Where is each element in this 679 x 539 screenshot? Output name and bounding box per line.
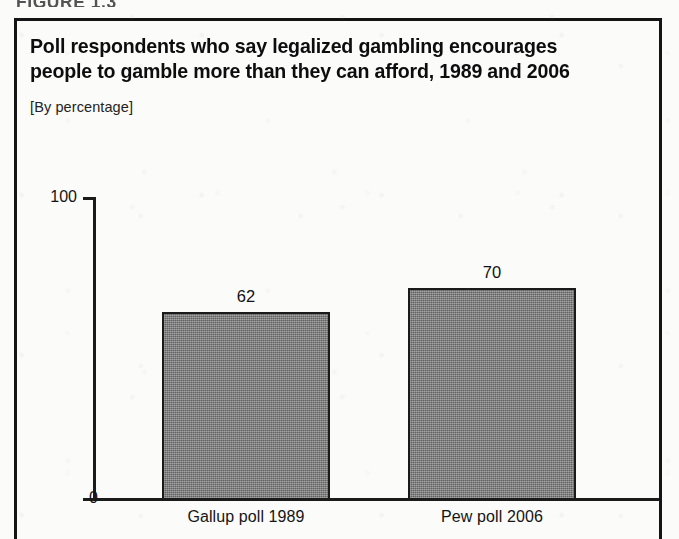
- bar-value-label-1: 70: [408, 263, 576, 282]
- bar-value-label-0: 62: [162, 287, 330, 306]
- bar-pew-poll-2006: [408, 288, 576, 500]
- y-axis-label-0: 0: [38, 489, 98, 507]
- bar-chart-plot: 100 0 62 70 Gallup poll 1989 Pew poll 20…: [0, 0, 679, 539]
- category-label-pew-poll-2006: Pew poll 2006: [377, 508, 607, 526]
- y-axis-tick-100: [83, 197, 94, 200]
- bar-gallup-poll-1989: [162, 312, 330, 500]
- y-axis-label-100: 100: [17, 188, 77, 206]
- category-label-gallup-poll-1989: Gallup poll 1989: [131, 508, 361, 526]
- y-axis-line: [93, 197, 96, 501]
